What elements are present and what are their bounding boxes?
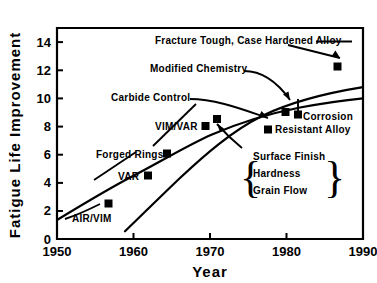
x-tick-1970: 1970 <box>196 244 225 259</box>
y-tick-6: 6 <box>44 147 51 162</box>
leader-modified <box>244 71 290 100</box>
marker-var <box>144 172 152 180</box>
marker-modified-chemistry <box>282 108 290 116</box>
x-tick-1980: 1980 <box>272 244 301 259</box>
y-tick-2: 2 <box>44 203 51 218</box>
marker-surface-finish <box>213 115 221 123</box>
leader-fracture <box>288 45 340 58</box>
y-tick-12: 12 <box>37 63 51 78</box>
x-tick-1950: 1950 <box>43 244 72 259</box>
fatigue-life-improvement-chart: 14 12 10 8 6 4 2 0 1950 1960 1970 1980 1… <box>0 0 377 283</box>
marker-forged-rings <box>163 150 171 158</box>
y-tick-labels: 14 12 10 8 6 4 2 0 <box>37 35 52 247</box>
label-vim-var: VIM/VAR <box>155 121 198 132</box>
marker-vim-var <box>202 122 210 130</box>
x-tick-1960: 1960 <box>119 244 148 259</box>
y-tick-10: 10 <box>37 91 51 106</box>
x-tick-1990: 1990 <box>349 244 377 259</box>
label-fracture-tough: Fracture Tough, Case Hardened Alloy <box>155 35 342 46</box>
y-axis-title: Fatigue Life Improvement <box>6 32 23 239</box>
label-var: VAR <box>118 171 140 182</box>
label-grain-flow: Grain Flow <box>253 185 307 196</box>
y-tick-8: 8 <box>44 119 51 134</box>
label-modified-chemistry: Modified Chemistry <box>150 63 247 74</box>
x-axis-title: Year <box>192 263 228 280</box>
chart-svg: 14 12 10 8 6 4 2 0 1950 1960 1970 1980 1… <box>0 0 377 283</box>
marker-air-vim <box>105 200 113 208</box>
label-air-vim: AIR/VIM <box>72 213 112 224</box>
marker-carbide-control <box>264 126 272 134</box>
brace-left-icon: { <box>240 153 261 202</box>
marker-fracture-tough <box>334 63 342 71</box>
brace-right-icon: } <box>324 153 345 202</box>
label-forged-rings: Forged Rings <box>96 149 164 160</box>
y-tick-14: 14 <box>37 35 52 50</box>
x-tick-labels: 1950 1960 1970 1980 1990 <box>43 244 377 259</box>
y-tick-4: 4 <box>44 175 52 190</box>
label-surface-finish: Surface Finish <box>253 151 325 162</box>
label-carbide-control: Carbide Control <box>111 92 190 103</box>
label-resistant-alloy: Resistant Alloy <box>275 124 351 135</box>
leader-carbide <box>190 99 268 118</box>
annotation-labels: Fracture Tough, Case Hardened Alloy Modi… <box>72 35 353 224</box>
label-corrosion: Corrosion <box>303 111 353 122</box>
